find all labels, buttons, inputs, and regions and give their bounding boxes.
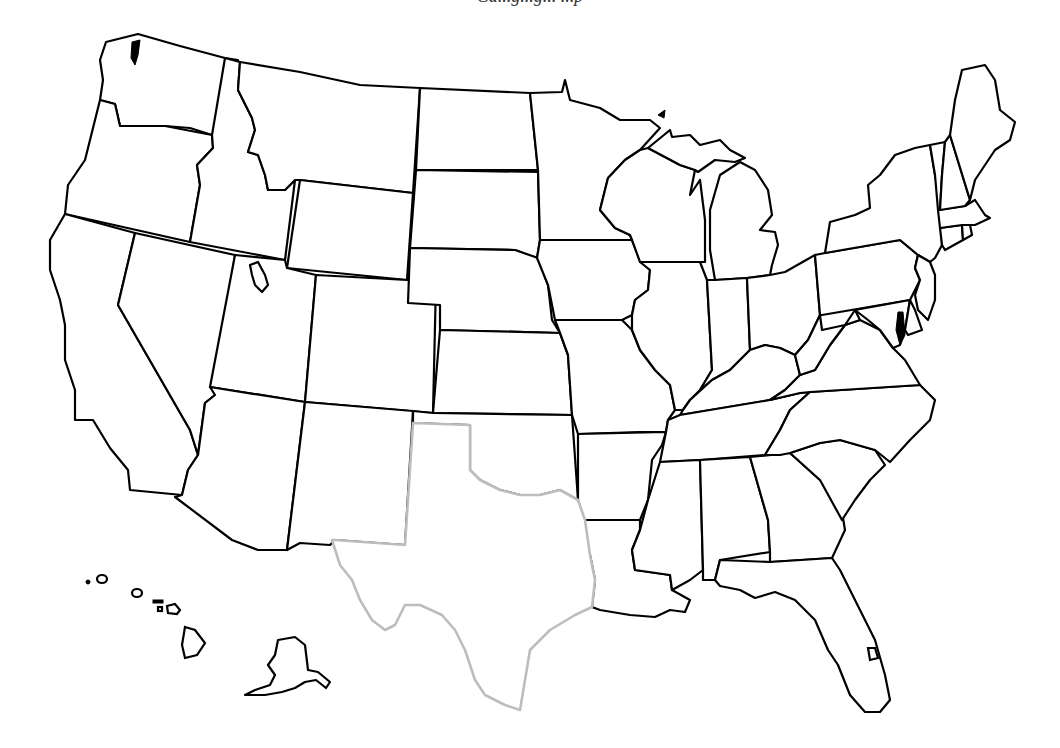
hawaii-island-kauai (97, 575, 107, 583)
hawaii-island-lanai (158, 607, 162, 611)
state-wyoming[interactable] (287, 180, 413, 280)
state-new-jersey[interactable] (915, 255, 935, 320)
hawaii-island-big-island (182, 627, 205, 658)
state-rhode-island[interactable] (962, 225, 972, 240)
state-kansas[interactable] (433, 330, 572, 415)
contiguous-states (50, 34, 1015, 712)
state-connecticut[interactable] (940, 225, 963, 250)
state-new-mexico[interactable] (287, 402, 413, 550)
hawaii-island-molokai (153, 600, 163, 603)
state-north-dakota[interactable] (416, 88, 538, 170)
hawaii-island-maui (167, 604, 180, 614)
isle-royale-icon (658, 110, 665, 118)
state-montana[interactable] (238, 62, 420, 193)
alaska-outline (245, 637, 330, 695)
state-michigan[interactable] (710, 162, 778, 280)
state-south-dakota[interactable] (410, 170, 540, 258)
hawaii-island-niihau (86, 580, 90, 584)
inset-alaska (245, 637, 330, 695)
lake-okeechobee-icon (868, 648, 878, 660)
us-states-map (0, 0, 1060, 748)
state-florida[interactable] (715, 558, 890, 712)
hawaii-island-oahu (132, 589, 142, 597)
inset-hawaii (86, 575, 205, 658)
